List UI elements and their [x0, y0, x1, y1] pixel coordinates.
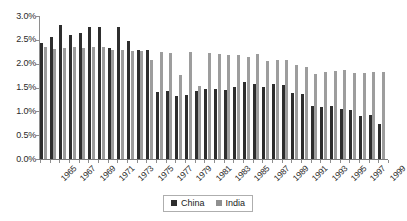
- y-tick-label: 3.0%: [16, 12, 36, 21]
- bar-india: [121, 50, 124, 159]
- bar-india: [44, 47, 47, 159]
- bar-india: [179, 75, 182, 159]
- bar-group: [233, 16, 243, 159]
- bar-china: [195, 91, 198, 159]
- x-tick-label: 1987: [272, 164, 291, 183]
- bar-china: [272, 84, 275, 159]
- x-tickmark: [117, 160, 118, 163]
- x-tickmark: [359, 160, 360, 163]
- legend-item: India: [216, 198, 246, 208]
- bar-india: [160, 52, 163, 159]
- x-tickmark: [185, 160, 186, 163]
- bar-china: [166, 91, 169, 159]
- y-tick-label: 1.0%: [16, 107, 36, 116]
- bar-group: [50, 16, 60, 159]
- bar-group: [369, 16, 379, 159]
- x-tick-label: 1991: [310, 164, 329, 183]
- bar-india: [53, 49, 56, 159]
- bar-china: [175, 96, 178, 159]
- bar-group: [59, 16, 69, 159]
- bar-china: [146, 50, 149, 159]
- bar-india: [208, 53, 211, 159]
- bar-india: [198, 86, 201, 159]
- bar-group: [349, 16, 359, 159]
- bar-group: [69, 16, 79, 159]
- bar-china: [224, 90, 227, 159]
- bar-china: [291, 93, 294, 159]
- x-tickmark: [311, 160, 312, 163]
- x-tickmark: [233, 160, 234, 163]
- x-tickmark: [69, 160, 70, 163]
- bar-india: [295, 65, 298, 159]
- bar-group: [224, 16, 234, 159]
- bar-india: [237, 55, 240, 159]
- bar-china: [59, 25, 62, 159]
- bar-group: [108, 16, 118, 159]
- legend-swatch-icon: [171, 200, 177, 206]
- bar-china: [40, 43, 43, 159]
- bar-china: [282, 85, 285, 159]
- bar-china: [262, 87, 265, 159]
- bar-india: [73, 47, 76, 159]
- bar-india: [266, 61, 269, 159]
- bar-china: [137, 50, 140, 159]
- y-tick-label: 1.5%: [16, 83, 36, 92]
- bar-group: [185, 16, 195, 159]
- bar-group: [204, 16, 214, 159]
- bar-group: [146, 16, 156, 159]
- bar-china: [117, 27, 120, 159]
- bar-india: [256, 54, 259, 159]
- bar-china: [156, 92, 159, 159]
- bar-india: [343, 70, 346, 159]
- bar-group: [79, 16, 89, 159]
- bar-group: [291, 16, 301, 159]
- x-tick-label: 1965: [59, 164, 78, 183]
- bar-china: [98, 27, 101, 159]
- bar-group: [262, 16, 272, 159]
- x-axis-labels: 1965196719691971197319751977197919811983…: [40, 164, 388, 194]
- x-tickmark: [369, 160, 370, 163]
- bar-china: [378, 124, 381, 159]
- bar-china: [320, 107, 323, 159]
- bar-india: [353, 73, 356, 159]
- bar-china: [301, 94, 304, 159]
- x-tickmark: [156, 160, 157, 163]
- x-tick-label: 1967: [78, 164, 97, 183]
- bar-china: [311, 106, 314, 159]
- bar-china: [69, 35, 72, 159]
- bar-group: [243, 16, 253, 159]
- bar-group: [88, 16, 98, 159]
- x-tickmark: [98, 160, 99, 163]
- bar-group: [378, 16, 388, 159]
- bar-india: [102, 47, 105, 159]
- legend-label: India: [226, 198, 246, 208]
- bar-group: [272, 16, 282, 159]
- bar-group: [214, 16, 224, 159]
- bar-group: [98, 16, 108, 159]
- bar-india: [63, 48, 66, 159]
- x-tickmark: [166, 160, 167, 163]
- bar-group: [166, 16, 176, 159]
- x-tickmark: [195, 160, 196, 163]
- x-tickmark: [272, 160, 273, 163]
- bar-india: [314, 74, 317, 159]
- x-tick-label: 1975: [156, 164, 175, 183]
- x-tickmark: [282, 160, 283, 163]
- x-tick-label: 1971: [117, 164, 136, 183]
- x-tickmark: [253, 160, 254, 163]
- bar-china: [108, 48, 111, 159]
- bar-india: [276, 60, 279, 159]
- plot-area: [40, 16, 388, 159]
- bar-china: [330, 106, 333, 159]
- bar-china: [214, 89, 217, 159]
- x-tickmark: [137, 160, 138, 163]
- bar-group: [320, 16, 330, 159]
- bar-india: [111, 50, 114, 159]
- x-tick-label: 1999: [388, 164, 407, 183]
- bar-group: [117, 16, 127, 159]
- bar-group: [137, 16, 147, 159]
- bar-group: [253, 16, 263, 159]
- x-tick-label: 1983: [233, 164, 252, 183]
- x-tickmark: [108, 160, 109, 163]
- bar-china: [50, 37, 53, 159]
